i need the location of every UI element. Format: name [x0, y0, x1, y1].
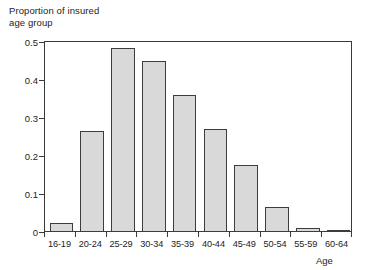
bar-chart: Proportion of insured age group 00.10.20…: [0, 0, 366, 270]
y-axis-title: Proportion of insured age group: [9, 5, 99, 28]
x-tick-label: 35-39: [171, 239, 194, 249]
x-tick-label: 55-59: [294, 239, 317, 249]
y-tick-mark: [39, 80, 44, 81]
bar: [50, 223, 73, 232]
x-tick-mark: [321, 232, 322, 237]
x-tick-label: 40-44: [202, 239, 225, 249]
x-tick-mark: [260, 232, 261, 237]
y-tick-mark: [39, 194, 44, 195]
y-tick-mark: [39, 118, 44, 119]
x-tick-label: 50-54: [264, 239, 287, 249]
x-tick-mark: [351, 232, 352, 237]
bar: [204, 129, 227, 232]
x-tick-mark: [44, 232, 45, 237]
bar: [234, 165, 257, 232]
bars-group: [45, 42, 351, 232]
y-tick-label: 0.4: [4, 75, 38, 86]
x-tick-mark: [290, 232, 291, 237]
bar: [111, 48, 134, 232]
x-tick-label: 25-29: [110, 239, 133, 249]
x-tick-mark: [167, 232, 168, 237]
x-tick-label: 60-64: [325, 239, 348, 249]
y-tick-label: 0.1: [4, 189, 38, 200]
bar: [142, 61, 165, 232]
y-tick-mark: [39, 156, 44, 157]
x-tick-label: 30-34: [140, 239, 163, 249]
bar: [173, 95, 196, 232]
y-tick-label: 0: [4, 227, 38, 238]
x-tick-mark: [198, 232, 199, 237]
bar: [265, 207, 288, 232]
x-tick-mark: [136, 232, 137, 237]
x-tick-mark: [229, 232, 230, 237]
x-tick-label: 45-49: [233, 239, 256, 249]
bar: [296, 228, 319, 232]
bar: [327, 230, 350, 232]
y-tick-label: 0.5: [4, 37, 38, 48]
y-tick-label: 0.3: [4, 113, 38, 124]
x-tick-mark: [106, 232, 107, 237]
x-tick-label: 20-24: [79, 239, 102, 249]
x-tick-mark: [75, 232, 76, 237]
y-tick-label: 0.2: [4, 151, 38, 162]
y-tick-mark: [39, 42, 44, 43]
bar: [80, 131, 103, 232]
x-axis-title: Age: [316, 255, 333, 266]
x-tick-label: 16-19: [48, 239, 71, 249]
